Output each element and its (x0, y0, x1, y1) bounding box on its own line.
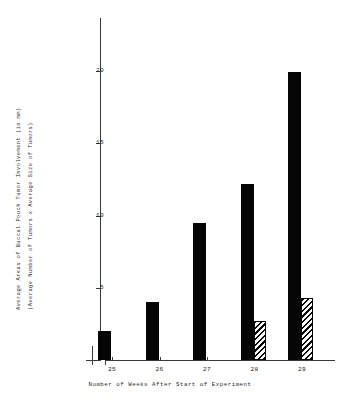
y-tick-label-wrap: 5 (60, 284, 104, 294)
x-axis-break-stub (86, 360, 100, 361)
bar-hatched-week-29 (301, 298, 313, 360)
y-tick-label: 5 (74, 284, 104, 291)
y-tick-label-wrap: 15 (60, 139, 104, 149)
x-tick-mark (160, 357, 161, 361)
x-tick-mark (112, 357, 113, 361)
axis-break-mark-left (92, 346, 93, 365)
bar-solid-week-27 (193, 223, 206, 360)
chart-figure: Average Areas of Buccal Pouch Tumor Invo… (0, 0, 340, 400)
bar-solid-week-29 (288, 72, 301, 360)
y-tick-label: 20 (74, 67, 104, 74)
bar-solid-week-28 (241, 184, 254, 360)
bar-solid-week-25 (98, 331, 111, 360)
x-tick-label: 29 (290, 366, 314, 373)
x-axis-title: Number of Weeks After Start of Experimen… (0, 381, 340, 388)
y-tick-label-wrap: 20 (60, 67, 104, 77)
x-tick-label: 28 (243, 366, 267, 373)
plot-area: 5101520 2526272829 (0, 0, 340, 400)
y-tick-label-wrap: 10 (60, 212, 104, 222)
x-axis-line (105, 360, 335, 361)
bar-hatched-week-28 (254, 321, 266, 360)
x-tick-label: 25 (100, 366, 124, 373)
y-tick-label: 15 (74, 139, 104, 146)
x-tick-mark (207, 357, 208, 361)
y-tick-label: 10 (74, 212, 104, 219)
x-tick-label: 26 (148, 366, 172, 373)
bar-solid-week-26 (146, 302, 159, 360)
x-tick-label: 27 (195, 366, 219, 373)
